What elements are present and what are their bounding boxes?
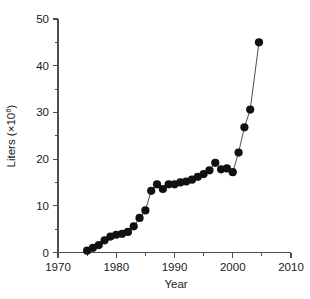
- data-point-marker: [141, 206, 149, 214]
- y-axis-tick-labels: 01020304050: [36, 13, 49, 259]
- x-tick-label: 1970: [45, 261, 71, 273]
- y-tick-label: 10: [36, 200, 49, 212]
- chart-figure: 01020304050 19701980199020002010 Liters …: [0, 0, 310, 299]
- y-tick-label: 20: [36, 153, 49, 165]
- x-tick-label: 1990: [162, 261, 188, 273]
- line-scatter-chart: 01020304050 19701980199020002010 Liters …: [0, 0, 310, 299]
- x-axis-ticks: [58, 253, 291, 259]
- data-point-marker: [130, 222, 138, 230]
- x-tick-label: 2000: [220, 261, 246, 273]
- y-axis-label: Liters (×106): [4, 104, 17, 167]
- data-point-marker: [211, 159, 219, 167]
- x-axis-tick-labels: 19701980199020002010: [45, 261, 304, 273]
- data-series-line: [87, 42, 259, 250]
- y-tick-label: 0: [43, 247, 49, 259]
- y-axis-label-close: ): [5, 104, 17, 108]
- y-tick-label: 50: [36, 13, 49, 25]
- data-point-marker: [135, 214, 143, 222]
- y-tick-label: 40: [36, 60, 49, 72]
- data-point-marker: [229, 168, 237, 176]
- y-axis-label-base: Liters (×10: [5, 113, 17, 168]
- data-point-marker: [240, 123, 248, 131]
- data-point-marker: [205, 166, 213, 174]
- data-point-marker: [246, 106, 254, 114]
- data-point-marker: [147, 187, 155, 195]
- x-tick-label: 1980: [103, 261, 129, 273]
- x-axis-label: Year: [164, 278, 187, 290]
- y-axis-ticks: [53, 19, 59, 253]
- y-tick-label: 30: [36, 106, 49, 118]
- data-point-marker: [234, 148, 242, 156]
- data-series-points: [83, 38, 263, 254]
- data-point-marker: [255, 38, 263, 46]
- x-tick-label: 2010: [278, 261, 304, 273]
